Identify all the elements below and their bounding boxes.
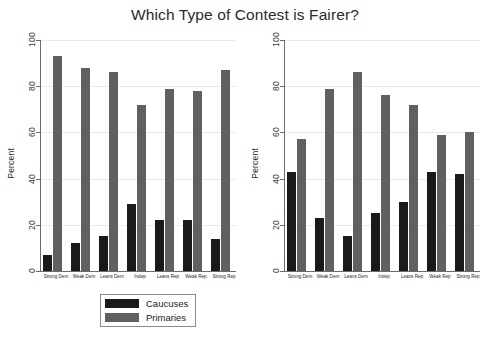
- bar: [81, 68, 90, 271]
- y-axis-tick-value: 0: [272, 268, 281, 273]
- bar-group: [314, 40, 342, 271]
- legend-label: Caucuses: [146, 299, 188, 309]
- y-axis-tick: [36, 179, 40, 180]
- bar: [43, 255, 52, 271]
- bar-group: [210, 40, 238, 271]
- y-axis-tick-label: 80: [18, 79, 36, 93]
- bar: [437, 135, 446, 271]
- y-axis-tick: [280, 132, 284, 133]
- bar-group: [370, 40, 398, 271]
- y-axis-tick: [36, 132, 40, 133]
- legend-swatch: [105, 313, 139, 322]
- bar-group: [42, 40, 70, 271]
- x-axis-tick-label: Leans Rep: [157, 274, 179, 279]
- y-axis-tick-label: 40: [18, 172, 36, 186]
- y-axis-tick-label: 100: [262, 33, 280, 47]
- x-axis-line: [40, 271, 236, 272]
- bar: [325, 89, 334, 271]
- y-axis-line: [40, 40, 41, 271]
- y-axis-tick-label: 100: [18, 33, 36, 47]
- bar: [221, 70, 230, 271]
- x-axis-tick-label: Weak Dem: [73, 274, 96, 279]
- x-axis-tick-label: Weak Dem: [317, 274, 340, 279]
- y-axis-tick-value: 60: [272, 127, 281, 137]
- page-title: Which Type of Contest is Fairer?: [0, 6, 490, 24]
- y-axis-tick-value: 20: [272, 220, 281, 230]
- bar: [315, 218, 324, 271]
- y-axis-tick-value: 40: [28, 174, 37, 184]
- plot-area-right: 020406080100Percent: [284, 40, 480, 271]
- y-axis-tick-label: 60: [18, 125, 36, 139]
- y-axis-tick-label: 60: [262, 125, 280, 139]
- y-axis-tick-label: 40: [262, 172, 280, 186]
- y-axis-tick: [36, 271, 40, 272]
- y-axis-title: Percent: [250, 148, 260, 179]
- bar: [137, 105, 146, 271]
- y-axis-tick-label: 0: [18, 264, 36, 278]
- bar: [193, 91, 202, 271]
- y-axis-tick-value: 60: [28, 127, 37, 137]
- x-axis-tick-label: Indep: [378, 274, 390, 279]
- bar: [455, 174, 464, 271]
- x-axis-tick-label: Strong Dem: [288, 274, 313, 279]
- x-axis-tick-label: Leans Dem: [100, 274, 124, 279]
- bar: [165, 89, 174, 271]
- legend-swatch: [105, 299, 139, 308]
- bar: [353, 72, 362, 271]
- bar-group: [182, 40, 210, 271]
- y-axis-tick-value: 0: [28, 268, 37, 273]
- bar-group: [98, 40, 126, 271]
- y-axis-tick: [36, 86, 40, 87]
- y-axis-tick-label: 0: [262, 264, 280, 278]
- bar: [287, 172, 296, 271]
- x-axis-tick-label: Weak Rep: [429, 274, 450, 279]
- y-axis-tick: [36, 225, 40, 226]
- chart-panel-left: 020406080100Percent Strong DemWeak DemLe…: [2, 28, 245, 340]
- y-axis-tick: [280, 86, 284, 87]
- x-axis-tick-label: Strong Dem: [44, 274, 69, 279]
- legend-item: Primaries: [105, 312, 188, 323]
- bar: [297, 139, 306, 271]
- y-axis-tick-label: 20: [18, 218, 36, 232]
- y-axis-title: Percent: [6, 148, 16, 179]
- y-axis-tick-value: 40: [272, 174, 281, 184]
- bar-group: [126, 40, 154, 271]
- y-axis-tick: [280, 179, 284, 180]
- x-axis-tick-label: Indep: [134, 274, 146, 279]
- y-axis-tick: [280, 271, 284, 272]
- bar-group: [154, 40, 182, 271]
- x-axis-labels-left: Strong DemWeak DemLeans DemIndepLeans Re…: [40, 274, 236, 286]
- y-axis-tick-value: 100: [272, 32, 281, 47]
- y-axis-tick-value: 80: [272, 81, 281, 91]
- y-axis-tick-label: 20: [262, 218, 280, 232]
- bar-group: [342, 40, 370, 271]
- legend-label: Primaries: [146, 313, 186, 323]
- bar-group: [454, 40, 482, 271]
- x-axis-tick-label: Leans Dem: [344, 274, 368, 279]
- bar: [183, 220, 192, 271]
- bar: [343, 236, 352, 271]
- x-axis-tick-label: Strong Rep: [212, 274, 235, 279]
- x-axis-tick-label: Weak Rep: [185, 274, 206, 279]
- y-axis-line: [284, 40, 285, 271]
- bar: [465, 132, 474, 271]
- y-axis-tick-value: 20: [28, 220, 37, 230]
- x-axis-tick-label: Strong Rep: [456, 274, 479, 279]
- bar: [71, 243, 80, 271]
- y-axis-tick: [280, 225, 284, 226]
- x-axis-labels-right: Strong DemWeak DemLeans DemIndepLeans Re…: [284, 274, 480, 286]
- x-axis-tick-label: Leans Rep: [401, 274, 423, 279]
- y-axis-tick-label: 80: [262, 79, 280, 93]
- plot-area-left: 020406080100Percent: [40, 40, 236, 271]
- legend-left: CaucusesPrimaries: [100, 294, 196, 327]
- bar: [127, 204, 136, 271]
- bar: [427, 172, 436, 271]
- bar-group: [398, 40, 426, 271]
- legend-item: Caucuses: [105, 298, 188, 309]
- bar: [109, 72, 118, 271]
- bar-group: [70, 40, 98, 271]
- bar: [155, 220, 164, 271]
- y-axis-tick: [280, 40, 284, 41]
- bar: [53, 56, 62, 271]
- y-axis-tick-value: 100: [28, 32, 37, 47]
